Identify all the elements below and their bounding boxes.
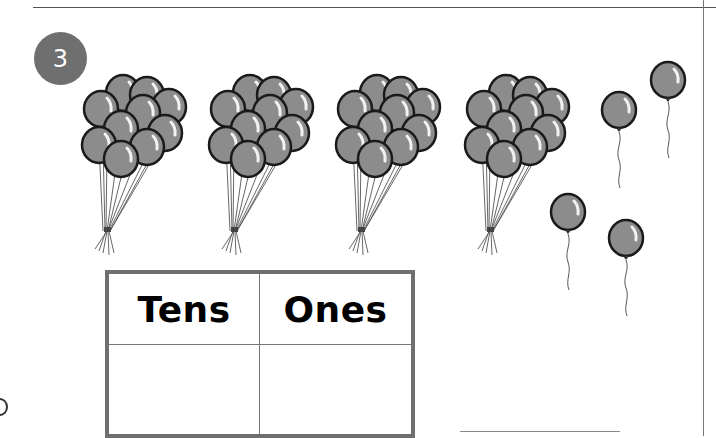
bottom-answer-line — [460, 431, 620, 432]
tens-answer-cell[interactable] — [109, 345, 260, 434]
single-balloon-4 — [609, 220, 643, 316]
ones-header-cell: Ones — [260, 274, 411, 345]
tens-header: Tens — [137, 289, 230, 330]
place-value-table: Tens Ones — [105, 270, 415, 438]
ones-answer-cell[interactable] — [260, 345, 411, 434]
single-balloon-1 — [602, 92, 636, 188]
single-balloon-2 — [651, 62, 685, 158]
balloon-bunch-2 — [209, 75, 313, 255]
balloon-bunch-3 — [336, 75, 440, 255]
tens-header-cell: Tens — [109, 274, 260, 345]
balloon-bunch-4 — [465, 75, 569, 255]
ones-header: Ones — [283, 289, 387, 330]
balloon-bunch-1 — [82, 75, 186, 255]
single-balloon-3 — [551, 194, 585, 290]
